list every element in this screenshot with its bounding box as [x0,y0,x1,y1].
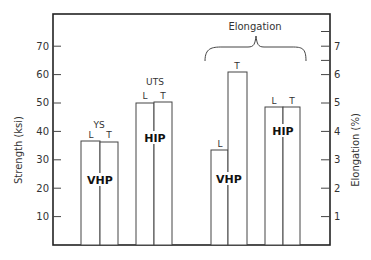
l-label: L [88,130,93,140]
l-label: L [142,91,147,101]
l-label: L [217,139,222,149]
y2-tick-label: 4 [334,126,340,137]
y-tick-label: 10 [36,211,49,222]
y2-tick-label: 5 [334,97,340,108]
right-axis-labels: 1 2 3 4 5 6 7 [334,41,340,223]
bar-vhp-ys-l [81,141,100,245]
chart: 10 20 30 40 50 60 70 Strength (ksi) 1 2 … [0,0,371,260]
bar-group-vhp-elongation [211,72,247,245]
y2-tick-label: 1 [334,211,340,222]
t-label: T [159,91,166,101]
bar-vhp-ys-t [100,142,118,245]
vhp-label: VHP [216,173,242,186]
y-tick-label: 20 [36,183,49,194]
bar-hip-uts-t [154,102,172,245]
elongation-brace [205,36,306,61]
y-tick-label: 40 [36,126,49,137]
y2-tick-label: 3 [334,154,340,165]
bar-vhp-elong-l [211,150,228,245]
bar-vhp-elong-t [228,72,247,245]
ys-label: YS [92,120,104,130]
vhp-label: VHP [87,174,113,187]
left-axis [53,46,61,216]
y2-axis-title: Elongation (%) [350,113,361,187]
t-label: T [105,130,112,140]
t-label: T [288,96,295,106]
uts-label: UTS [146,77,164,87]
elongation-label: Elongation [228,21,281,32]
bar-hip-uts-l [136,103,154,245]
y-tick-label: 50 [36,97,49,108]
y-tick-label: 60 [36,69,49,80]
y2-tick-label: 6 [334,69,340,80]
y2-tick-label: 2 [334,183,340,194]
y-tick-label: 70 [36,41,49,52]
bar-group-hip-uts [136,102,172,245]
hip-label: HIP [272,125,293,138]
t-label: T [233,61,240,71]
right-axis [321,32,330,217]
y-tick-label: 30 [36,154,49,165]
l-label: L [271,96,276,106]
hip-label: HIP [144,132,165,145]
left-axis-labels: 10 20 30 40 50 60 70 [36,41,49,223]
y2-tick-label: 7 [334,41,340,52]
y-axis-title: Strength (ksi) [13,116,24,184]
bar-group-vhp-ys [81,141,118,245]
